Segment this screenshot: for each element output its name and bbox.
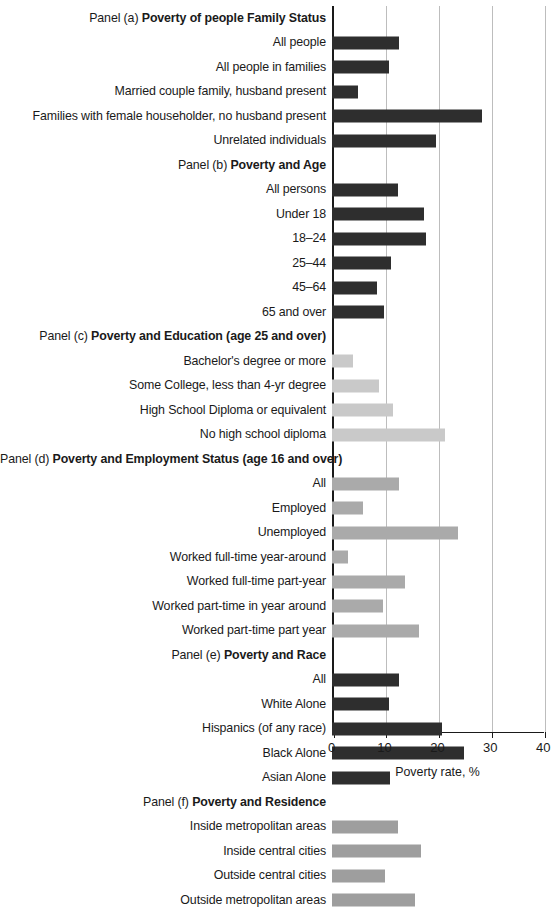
category-label: White Alone	[0, 698, 332, 711]
bar	[332, 845, 421, 858]
x-tick-label-40: 40	[536, 740, 550, 755]
bar-track	[332, 423, 555, 448]
bar-track	[332, 717, 555, 742]
category-label: Inside central cities	[0, 845, 332, 858]
bar-track	[332, 276, 555, 301]
bar	[332, 379, 379, 392]
bar-track	[332, 202, 555, 227]
panel-heading-e: Panel (e) Poverty and Race	[0, 643, 555, 668]
chart-row: Inside metropolitan areas	[0, 815, 555, 840]
chart-row: Hispanics (of any race)	[0, 717, 555, 742]
category-label: Unemployed	[0, 526, 332, 539]
bar	[332, 208, 424, 221]
bar-track	[332, 178, 555, 203]
panel-number-f: Panel (f)	[143, 795, 192, 809]
category-label: 18–24	[0, 232, 332, 245]
bar-track	[332, 129, 555, 154]
chart-row: No high school diploma	[0, 423, 555, 448]
category-label: Outside metropolitan areas	[0, 894, 332, 907]
panel-number-a: Panel (a)	[89, 11, 142, 25]
bar-track	[332, 251, 555, 276]
chart-row: Outside central cities	[0, 864, 555, 889]
chart-row: Worked part-time in year around	[0, 594, 555, 619]
bar-track	[332, 619, 555, 644]
bar	[332, 183, 398, 196]
panel-title-c: Poverty and Education (age 25 and over)	[91, 329, 326, 343]
chart-row: All	[0, 472, 555, 497]
category-label: Unrelated individuals	[0, 134, 332, 147]
category-label: Worked part-time part year	[0, 624, 332, 637]
chart-row: 25–44	[0, 251, 555, 276]
bar-track	[332, 80, 555, 105]
chart-row: 18–24	[0, 227, 555, 252]
panel-heading-label-e: Panel (e) Poverty and Race	[0, 649, 332, 662]
bar-track	[332, 521, 555, 546]
panel-heading-spacer-f	[332, 790, 555, 815]
chart-row: 65 and over	[0, 300, 555, 325]
chart-row: Under 18	[0, 202, 555, 227]
bar	[332, 355, 353, 368]
category-label: All people in families	[0, 61, 332, 74]
bar-track	[332, 104, 555, 129]
bar	[332, 894, 415, 907]
panel-title-f: Poverty and Residence	[192, 795, 326, 809]
bar	[332, 232, 426, 245]
bar-track	[332, 692, 555, 717]
panel-heading-spacer-d	[332, 447, 555, 472]
bar-track	[332, 349, 555, 374]
category-label: All	[0, 477, 332, 490]
bar-track	[332, 594, 555, 619]
panel-number-c: Panel (c)	[39, 329, 91, 343]
category-label: Worked part-time in year around	[0, 600, 332, 613]
bar	[332, 722, 442, 735]
x-tick-label-10: 10	[377, 740, 391, 755]
chart-row: Worked part-time part year	[0, 619, 555, 644]
panel-heading-spacer-e	[332, 643, 555, 668]
bar	[332, 404, 393, 417]
bar-track	[332, 374, 555, 399]
bar	[332, 698, 389, 711]
chart-row: Families with female householder, no hus…	[0, 104, 555, 129]
bar-track	[332, 227, 555, 252]
bar	[332, 526, 458, 539]
category-label: 65 and over	[0, 306, 332, 319]
panel-heading-spacer-a	[332, 6, 555, 31]
bar	[332, 502, 363, 515]
bar-track	[332, 888, 555, 911]
bar	[332, 306, 384, 319]
panel-title-b: Poverty and Age	[230, 158, 326, 172]
category-label: Under 18	[0, 208, 332, 221]
chart-row: All persons	[0, 178, 555, 203]
bar-track	[332, 545, 555, 570]
chart-row: 45–64	[0, 276, 555, 301]
bar-track	[332, 839, 555, 864]
panel-number-d: Panel (d)	[0, 452, 53, 466]
panel-heading-label-d: Panel (d) Poverty and Employment Status …	[0, 453, 332, 466]
bar	[332, 281, 377, 294]
panel-number-b: Panel (b)	[178, 158, 231, 172]
category-label: No high school diploma	[0, 428, 332, 441]
x-axis-title: Poverty rate, %	[332, 765, 544, 779]
chart-row: Married couple family, husband present	[0, 80, 555, 105]
bar	[332, 820, 398, 833]
category-label: Some College, less than 4-yr degree	[0, 379, 332, 392]
bar	[332, 36, 399, 49]
bar	[332, 134, 436, 147]
panel-title-e: Poverty and Race	[224, 648, 326, 662]
category-label: Married couple family, husband present	[0, 85, 332, 98]
bar	[332, 624, 419, 637]
chart-row: All	[0, 668, 555, 693]
chart-row: White Alone	[0, 692, 555, 717]
bar-track	[332, 31, 555, 56]
panel-heading-label-f: Panel (f) Poverty and Residence	[0, 796, 332, 809]
category-label: Bachelor's degree or more	[0, 355, 332, 368]
chart-row: Unrelated individuals	[0, 129, 555, 154]
bar-track	[332, 398, 555, 423]
bar	[332, 551, 348, 564]
panel-heading-f: Panel (f) Poverty and Residence	[0, 790, 555, 815]
bar	[332, 673, 399, 686]
chart-row: Outside metropolitan areas	[0, 888, 555, 911]
category-label: Inside metropolitan areas	[0, 820, 332, 833]
panel-heading-label-b: Panel (b) Poverty and Age	[0, 159, 332, 172]
category-label: Asian Alone	[0, 771, 332, 784]
